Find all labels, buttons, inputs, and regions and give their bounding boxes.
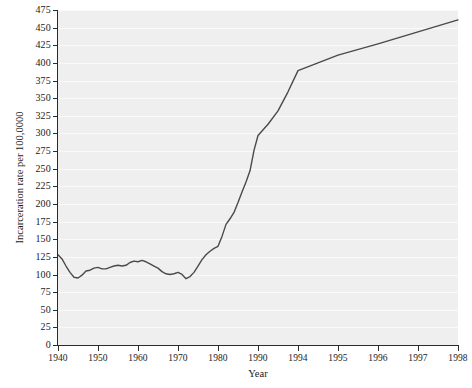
x-tick-label-text: 1995	[328, 353, 347, 363]
x-tick-label-text: 1994	[288, 353, 307, 363]
y-tick-mark	[53, 98, 57, 99]
y-tick-mark	[53, 151, 57, 152]
x-tick-label-text: 1996	[368, 353, 387, 363]
x-tick-label-text: 1950	[88, 353, 107, 363]
y-tick-mark	[53, 275, 57, 276]
x-tick-label-text: 1940	[48, 353, 67, 363]
y-tick-mark	[53, 327, 57, 328]
y-tick-mark	[53, 239, 57, 240]
x-tick-label-text: 1990	[248, 353, 267, 363]
y-tick-mark	[53, 169, 57, 170]
y-tick-mark	[53, 10, 57, 11]
plot-area	[58, 10, 458, 345]
series-line	[58, 20, 458, 279]
y-tick-mark	[53, 28, 57, 29]
y-tick-mark	[53, 257, 57, 258]
x-tick-mark	[378, 346, 379, 351]
x-tick-mark	[298, 346, 299, 351]
y-tick-mark	[53, 310, 57, 311]
y-tick-mark	[53, 204, 57, 205]
y-tick-mark	[53, 116, 57, 117]
y-tick-mark	[53, 345, 57, 346]
y-tick-mark	[53, 292, 57, 293]
x-tick-label-text: 1960	[128, 353, 147, 363]
x-tick-mark	[458, 346, 459, 351]
chart-container: 0255075100125150175200225250275300325350…	[0, 0, 472, 388]
x-tick-mark	[138, 346, 139, 351]
x-tick-label-text: 1970	[168, 353, 187, 363]
y-tick-mark	[53, 63, 57, 64]
y-tick-mark	[53, 222, 57, 223]
y-tick-mark	[53, 133, 57, 134]
x-tick-label-text: 1997	[408, 353, 427, 363]
x-tick-label-text: 1980	[208, 353, 227, 363]
x-tick-mark	[338, 346, 339, 351]
x-tick-mark	[98, 346, 99, 351]
x-tick-mark	[58, 346, 59, 351]
y-axis-line	[57, 10, 58, 346]
line-series	[58, 10, 458, 345]
x-tick-mark	[218, 346, 219, 351]
y-tick-mark	[53, 45, 57, 46]
y-tick-mark	[53, 186, 57, 187]
x-tick-mark	[178, 346, 179, 351]
x-tick-mark	[258, 346, 259, 351]
y-axis-title: Incarceration rate per 100,0000	[14, 10, 28, 345]
x-axis-title: Year	[58, 368, 458, 379]
x-tick-label-text: 1998	[448, 353, 467, 363]
x-tick-mark	[418, 346, 419, 351]
y-tick-mark	[53, 81, 57, 82]
